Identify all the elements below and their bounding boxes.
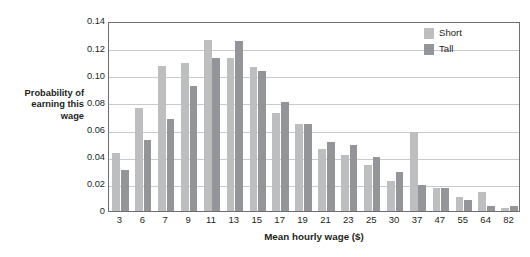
y-axis-tick: 0.04 bbox=[87, 153, 105, 162]
legend: ShortTall bbox=[424, 26, 510, 58]
bar-group bbox=[178, 23, 201, 211]
bar-short bbox=[112, 153, 120, 211]
bar-short bbox=[341, 155, 349, 211]
bar-group bbox=[201, 23, 224, 211]
y-axis-tick-labels: 00.020.040.060.080.100.120.14 bbox=[84, 0, 108, 257]
x-axis-tick: 25 bbox=[360, 214, 383, 226]
bar-tall bbox=[396, 172, 404, 211]
y-axis-tick: 0.10 bbox=[87, 72, 105, 81]
legend-item: Tall bbox=[424, 42, 510, 56]
bar-tall bbox=[487, 206, 495, 211]
x-axis-tick: 37 bbox=[406, 214, 429, 226]
x-axis-tick: 3 bbox=[108, 214, 131, 226]
bar-short bbox=[364, 165, 372, 211]
bar-group bbox=[315, 23, 338, 211]
bar-short bbox=[478, 192, 486, 211]
bar-tall bbox=[144, 140, 152, 211]
bar-group bbox=[384, 23, 407, 211]
x-axis-tick: 6 bbox=[131, 214, 154, 226]
x-axis-tick: 9 bbox=[177, 214, 200, 226]
chart-figure: Probability of earning this wage 00.020.… bbox=[0, 0, 530, 257]
bar-group bbox=[361, 23, 384, 211]
bar-short bbox=[181, 63, 189, 211]
x-axis-tick: 64 bbox=[474, 214, 497, 226]
bar-short bbox=[250, 67, 258, 211]
bar-group bbox=[292, 23, 315, 211]
bar-tall bbox=[464, 200, 472, 211]
legend-label: Tall bbox=[439, 44, 453, 54]
x-axis-tick: 23 bbox=[337, 214, 360, 226]
y-axis-tick: 0.02 bbox=[87, 180, 105, 189]
y-axis-tick: 0.14 bbox=[87, 17, 105, 26]
x-axis-tick-labels: 36791113151719212325303747556482 bbox=[108, 214, 520, 230]
bar-tall bbox=[190, 86, 198, 211]
y-axis-tick: 0.06 bbox=[87, 126, 105, 135]
bar-tall bbox=[167, 119, 175, 211]
bar-group bbox=[338, 23, 361, 211]
bar-tall bbox=[235, 41, 243, 211]
bar-tall bbox=[121, 170, 129, 211]
bar-group bbox=[223, 23, 246, 211]
bar-group bbox=[269, 23, 292, 211]
x-axis-tick: 13 bbox=[222, 214, 245, 226]
x-axis-tick: 30 bbox=[383, 214, 406, 226]
x-axis-tick: 47 bbox=[428, 214, 451, 226]
bar-short bbox=[204, 40, 212, 211]
legend-label: Short bbox=[439, 28, 462, 38]
y-axis-label-line-1: Probability of bbox=[2, 88, 84, 99]
bar-short bbox=[272, 113, 280, 211]
y-axis-label-line-2: earning this bbox=[2, 99, 84, 110]
bar-short bbox=[158, 66, 166, 211]
x-axis-tick: 21 bbox=[314, 214, 337, 226]
bar-tall bbox=[327, 142, 335, 211]
legend-swatch-icon bbox=[424, 44, 434, 55]
x-axis-tick: 15 bbox=[245, 214, 268, 226]
bar-tall bbox=[212, 58, 220, 211]
bar-tall bbox=[510, 206, 518, 211]
bar-tall bbox=[418, 185, 426, 211]
bar-short bbox=[227, 58, 235, 211]
bar-tall bbox=[373, 157, 381, 211]
bar-tall bbox=[350, 145, 358, 212]
bar-short bbox=[410, 132, 418, 211]
bar-group bbox=[132, 23, 155, 211]
x-axis-tick: 19 bbox=[291, 214, 314, 226]
bar-short bbox=[295, 124, 303, 211]
bar-short bbox=[433, 188, 441, 211]
x-axis-tick: 55 bbox=[451, 214, 474, 226]
x-axis-tick: 11 bbox=[200, 214, 223, 226]
y-axis-tick: 0.12 bbox=[87, 45, 105, 54]
bar-tall bbox=[281, 102, 289, 211]
bar-short bbox=[135, 108, 143, 211]
y-axis-tick: 0.08 bbox=[87, 99, 105, 108]
x-axis-tick: 17 bbox=[268, 214, 291, 226]
bar-tall bbox=[441, 188, 449, 211]
y-axis-tick: 0 bbox=[100, 207, 105, 216]
bar-short bbox=[456, 197, 464, 211]
bar-short bbox=[501, 208, 509, 211]
x-axis-tick: 7 bbox=[154, 214, 177, 226]
bar-tall bbox=[304, 124, 312, 211]
y-axis-label: Probability of earning this wage bbox=[2, 88, 84, 122]
legend-item: Short bbox=[424, 26, 510, 40]
bar-short bbox=[387, 181, 395, 211]
bar-group bbox=[155, 23, 178, 211]
bar-short bbox=[318, 149, 326, 211]
bar-tall bbox=[258, 71, 266, 211]
y-axis-label-line-3: wage bbox=[2, 111, 84, 122]
bar-group bbox=[109, 23, 132, 211]
bar-group bbox=[246, 23, 269, 211]
x-axis-tick: 82 bbox=[497, 214, 520, 226]
x-axis-label: Mean hourly wage ($) bbox=[108, 231, 520, 242]
legend-swatch-icon bbox=[424, 28, 434, 39]
